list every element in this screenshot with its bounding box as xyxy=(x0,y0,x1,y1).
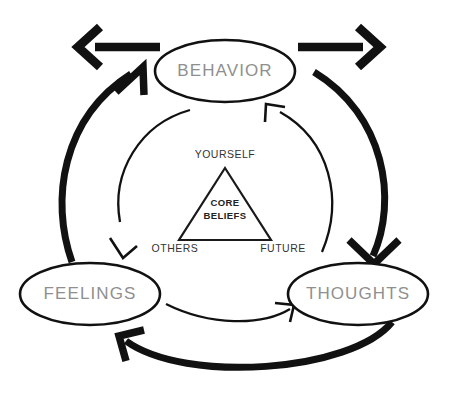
node-thoughts[interactable]: THOUGHTS xyxy=(288,263,428,325)
inner-arrow-feelings-to-thoughts-shaft xyxy=(166,304,290,321)
node-thoughts-label: THOUGHTS xyxy=(306,284,410,303)
cbt-cycle-diagram: YOURSELF OTHERS FUTURE CORE BELIEFS BEHA… xyxy=(0,0,450,398)
node-behavior-label: BEHAVIOR xyxy=(177,61,272,80)
node-behavior[interactable]: BEHAVIOR xyxy=(155,40,295,102)
core-beliefs-label-line2: BELIEFS xyxy=(204,210,247,221)
inner-arrow-behavior-to-feelings xyxy=(110,110,190,258)
triangle-apex-label: YOURSELF xyxy=(195,148,256,160)
core-beliefs-label-line1: CORE xyxy=(210,197,239,208)
external-left-arrow-icon xyxy=(78,27,160,67)
inner-arrow-behavior-to-feelings-shaft xyxy=(118,110,190,222)
arrow-thoughts-to-feelings-shaft xyxy=(126,322,392,367)
inner-arrow-thoughts-to-behavior xyxy=(265,104,332,252)
arrow-feelings-to-behavior xyxy=(62,67,144,262)
core-beliefs-triangle: YOURSELF OTHERS FUTURE CORE BELIEFS xyxy=(152,148,306,254)
node-feelings-label: FEELINGS xyxy=(44,284,137,303)
inner-arrow-feelings-to-thoughts xyxy=(166,303,294,322)
triangle-bottom-left-label: OTHERS xyxy=(152,242,199,254)
external-right-arrow-icon xyxy=(298,27,380,67)
diagram-canvas: YOURSELF OTHERS FUTURE CORE BELIEFS BEHA… xyxy=(0,0,450,398)
node-feelings[interactable]: FEELINGS xyxy=(20,263,160,325)
inner-arrow-thoughts-to-behavior-shaft xyxy=(280,112,332,252)
arrow-thoughts-to-feelings xyxy=(119,322,392,367)
arrow-feelings-to-behavior-shaft xyxy=(62,74,131,262)
triangle-bottom-right-label: FUTURE xyxy=(260,242,306,254)
inner-arrow-behavior-to-feelings-head xyxy=(110,238,137,258)
